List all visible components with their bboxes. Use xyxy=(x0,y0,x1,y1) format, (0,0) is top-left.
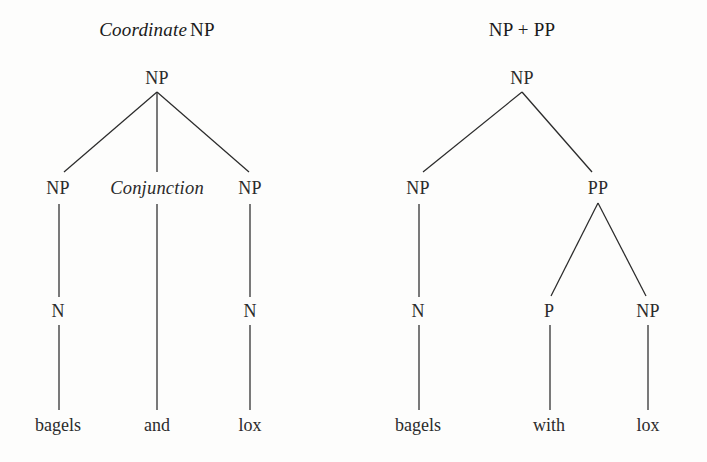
tree-node-l-root: NP xyxy=(145,68,168,89)
tree-node-l-conj: Conjunction xyxy=(110,178,204,199)
tree-node-r-pp: PP xyxy=(588,178,608,199)
tree-branch xyxy=(522,92,592,172)
tree-branch xyxy=(423,92,522,172)
tree-node-l-np2: NP xyxy=(238,178,261,199)
tree-branch xyxy=(64,92,157,172)
tree-node-r-p: P xyxy=(544,301,554,322)
tree-node-l-n1: N xyxy=(51,301,64,322)
syntax-tree-figure: CoordinateNPNPNPConjunctionNPNNbagelsand… xyxy=(0,0,707,462)
tree-node-r-np2: NP xyxy=(636,301,659,322)
tree-leaf-l-leaf2: and xyxy=(144,415,170,436)
tree-node-r-np1: NP xyxy=(406,178,429,199)
tree-node-r-root: NP xyxy=(510,68,533,89)
tree-leaf-r-leaf1: bagels xyxy=(395,415,441,436)
tree-node-r-n1: N xyxy=(411,301,424,322)
panel-title-roman: NP xyxy=(190,19,215,40)
tree-leaf-l-leaf1: bagels xyxy=(35,415,81,436)
tree-leaf-r-leaf3: lox xyxy=(636,415,659,436)
tree-branch xyxy=(598,203,646,296)
panel-title-coordinate-np: CoordinateNP xyxy=(99,19,215,41)
panel-title-emphasis: Coordinate xyxy=(99,19,190,40)
tree-edges-canvas xyxy=(0,0,707,462)
tree-branch xyxy=(551,203,598,296)
panel-title-roman: NP + PP xyxy=(489,19,555,40)
tree-node-l-np1: NP xyxy=(46,178,69,199)
panel-title-np-plus-pp: NP + PP xyxy=(489,19,555,41)
tree-leaf-l-leaf3: lox xyxy=(238,415,261,436)
tree-node-l-n2: N xyxy=(243,301,256,322)
tree-branch xyxy=(157,92,249,172)
tree-leaf-r-leaf2: with xyxy=(533,415,565,436)
